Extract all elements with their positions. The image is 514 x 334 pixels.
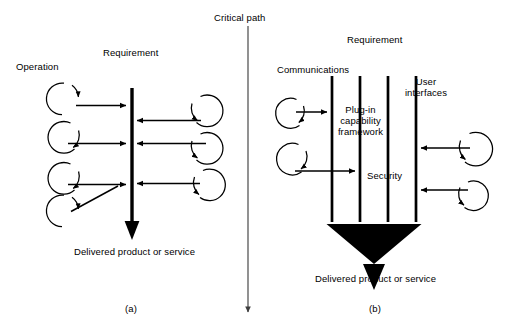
critical-path-label: Critical path: [214, 12, 265, 23]
loop-arrowhead: [73, 172, 79, 189]
panel-b-output-label: Delivered product or service: [315, 273, 436, 284]
panel-b-communications-label: Communications: [277, 64, 349, 75]
panel-a-left-node-2: [48, 122, 126, 154]
loop-circle: [197, 133, 223, 165]
panel-b-left-node-1: [276, 98, 327, 128]
panel-b-plugin-capability-framework-label: Plug-in capability framework: [337, 104, 384, 137]
panel-b: [276, 76, 493, 290]
loop-arrowhead: [299, 106, 305, 123]
panel-b-security-label: Security: [367, 170, 402, 181]
panel-a-left-node-3: [48, 163, 126, 195]
loop-circle: [276, 98, 300, 128]
loop-circle: [48, 163, 74, 195]
panel-a-right-node-1: [137, 95, 223, 127]
loop-circle: [465, 181, 489, 211]
panel-b-user-interfaces-label: User interfaces: [404, 76, 448, 98]
diagram-svg: [0, 0, 514, 334]
loop-arrowhead: [301, 151, 307, 169]
loop-circle: [277, 143, 302, 175]
panel-a-operation-label: Operation: [16, 61, 59, 72]
loop-circle: [46, 83, 64, 115]
loop-arrowhead: [193, 177, 199, 195]
loop-circle: [465, 132, 493, 166]
loop-circle: [197, 95, 223, 127]
panel-a: [46, 83, 225, 240]
loop-circle: [48, 122, 74, 154]
loop-arrowhead: [459, 141, 465, 160]
loop-arrowhead: [191, 104, 197, 121]
panel-a-requirement-label: Requirement: [103, 47, 159, 58]
panel-a-right-node-3: [137, 169, 225, 201]
panel-a-caption: (a): [125, 303, 137, 314]
requirement-bar-arrowhead: [125, 221, 140, 240]
panel-b-caption: (b): [369, 303, 381, 314]
panel-b-left-node-2: [277, 143, 355, 175]
panel-b-requirement-label: Requirement: [347, 34, 403, 45]
loop-circle: [46, 195, 64, 227]
figure-canvas: Critical path Operation Requirement Deli…: [0, 0, 514, 334]
loop-arrowhead: [72, 85, 78, 97]
funnel-body: [327, 224, 422, 264]
panel-a-requirement-bar: [125, 88, 140, 240]
panel-b-right-node-1: [421, 132, 493, 166]
loop-arrowhead: [73, 131, 79, 148]
loop-circle: [200, 169, 225, 201]
panel-a-right-node-2: [137, 133, 223, 165]
panel-a-output-label: Delivered product or service: [74, 246, 195, 257]
flow-arrow-to-bar: [71, 186, 118, 212]
panel-b-right-node-2: [421, 181, 488, 211]
panel-a-left-node-1: [46, 83, 126, 115]
